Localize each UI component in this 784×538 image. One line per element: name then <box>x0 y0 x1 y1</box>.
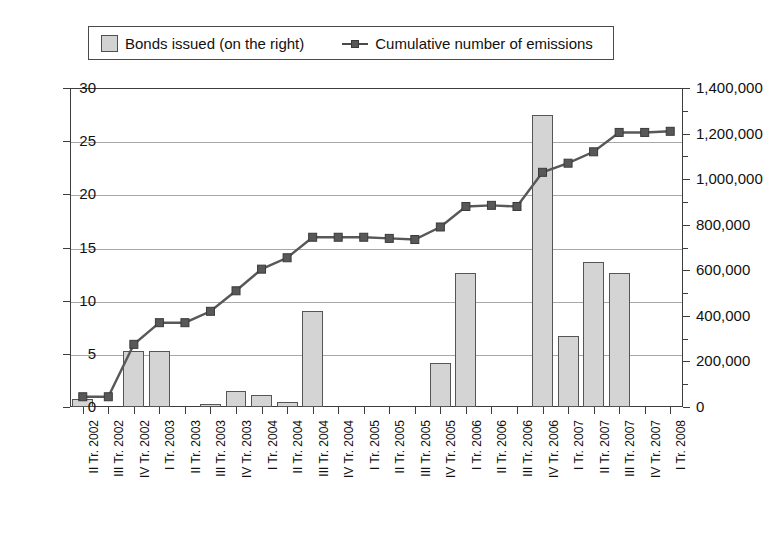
x-axis-tick <box>262 407 263 414</box>
x-axis-tick <box>491 407 492 414</box>
line-marker <box>411 236 419 244</box>
y-axis-left-tick <box>63 354 70 355</box>
x-axis-tick-label: III Tr. 2006 <box>522 420 534 477</box>
x-axis-tick-label: II Tr. 2007 <box>599 420 611 473</box>
line-marker <box>309 233 317 241</box>
y-axis-right-minor-tick <box>683 384 688 385</box>
line-marker <box>360 233 368 241</box>
line-marker <box>232 287 240 295</box>
line-marker <box>564 159 572 167</box>
y-axis-right-tick-label: 1,400,000 <box>696 80 763 95</box>
y-axis-left-tick-label: 30 <box>56 80 96 95</box>
legend-entry-bonds: Bonds issued (on the right) <box>101 35 304 52</box>
x-axis-tick-label: I Tr. 2003 <box>164 420 176 470</box>
line-marker <box>641 128 649 136</box>
y-axis-left-tick-label: 0 <box>56 399 96 414</box>
x-axis-tick <box>287 407 288 414</box>
line-series-layer <box>70 88 683 407</box>
x-axis-tick-label: I Tr. 2004 <box>267 420 279 470</box>
line-marker-icon <box>342 37 368 50</box>
x-axis-tick-label: IV Tr. 2004 <box>343 420 355 478</box>
line-marker <box>155 319 163 327</box>
y-axis-right-minor-tick <box>683 339 688 340</box>
y-axis-right-tick-label: 0 <box>696 399 704 414</box>
x-axis-tick-label: III Tr. 2005 <box>420 420 432 477</box>
x-axis-tick <box>364 407 365 414</box>
x-axis-tick <box>185 407 186 414</box>
y-axis-left-tick <box>63 248 70 249</box>
x-axis-tick <box>568 407 569 414</box>
x-axis-tick-label: IV Tr. 2005 <box>445 420 457 478</box>
x-axis-tick <box>670 407 671 414</box>
x-axis-tick-label: I Tr. 2006 <box>471 420 483 470</box>
x-axis-tick <box>440 407 441 414</box>
line-marker <box>104 393 112 401</box>
y-axis-right-tick <box>683 316 690 317</box>
x-axis-tick <box>313 407 314 414</box>
y-axis-right-tick <box>683 407 690 408</box>
chart-legend: Bonds issued (on the right) Cumulative n… <box>88 26 614 60</box>
y-axis-left-tick-label: 25 <box>56 133 96 148</box>
x-axis-tick <box>236 407 237 414</box>
x-axis-tick-label: I Tr. 2008 <box>675 420 687 470</box>
x-axis-tick-label: I Tr. 2005 <box>369 420 381 470</box>
line-marker <box>181 319 189 327</box>
y-axis-right-tick-label: 400,000 <box>696 308 750 323</box>
line-marker <box>615 128 623 136</box>
y-axis-right-tick-label: 200,000 <box>696 353 750 368</box>
line-marker <box>385 234 393 242</box>
x-axis-tick-label: III Tr. 2002 <box>113 420 125 477</box>
x-axis-tick-label: III Tr. 2003 <box>215 420 227 477</box>
x-axis-tick <box>134 407 135 414</box>
y-axis-left-tick <box>63 407 70 408</box>
x-axis-tick <box>517 407 518 414</box>
line-marker <box>513 202 521 210</box>
y-axis-left-tick-label: 20 <box>56 186 96 201</box>
cumulative-line <box>83 131 670 396</box>
y-axis-right-tick-label: 600,000 <box>696 262 750 277</box>
legend-label-cumulative: Cumulative number of emissions <box>375 36 593 51</box>
line-marker <box>206 307 214 315</box>
x-axis-tick <box>338 407 339 414</box>
x-axis-tick <box>210 407 211 414</box>
x-axis-tick <box>389 407 390 414</box>
y-axis-left-tick-label: 10 <box>56 293 96 308</box>
x-axis-tick-label: II Tr. 2002 <box>88 420 100 473</box>
x-axis-tick-label: III Tr. 2004 <box>318 420 330 477</box>
x-axis-tick-label: III Tr. 2007 <box>624 420 636 477</box>
x-axis-tick-label: IV Tr. 2003 <box>241 420 253 478</box>
x-axis-tick <box>543 407 544 414</box>
x-axis-tick-label: II Tr. 2006 <box>496 420 508 473</box>
y-axis-right-minor-tick <box>683 111 688 112</box>
line-marker <box>666 127 674 135</box>
x-axis-tick <box>594 407 595 414</box>
x-axis-tick-label: II Tr. 2005 <box>394 420 406 473</box>
y-axis-right-minor-tick <box>683 156 688 157</box>
y-axis-left-tick <box>63 88 70 89</box>
line-marker <box>283 254 291 262</box>
y-axis-left-tick <box>63 141 70 142</box>
line-marker <box>539 168 547 176</box>
chart-container: Bonds issued (on the right) Cumulative n… <box>0 0 784 538</box>
y-axis-right-tick <box>683 179 690 180</box>
line-marker <box>130 340 138 348</box>
legend-label-bonds: Bonds issued (on the right) <box>125 36 304 51</box>
x-axis-tick-label: IV Tr. 2007 <box>650 420 662 478</box>
x-axis-tick <box>619 407 620 414</box>
y-axis-right-tick <box>683 88 690 89</box>
y-axis-right-tick-label: 1,200,000 <box>696 126 763 141</box>
x-axis-tick-label: II Tr. 2004 <box>292 420 304 473</box>
x-axis-tick <box>159 407 160 414</box>
y-axis-left-tick <box>63 194 70 195</box>
x-axis-tick <box>645 407 646 414</box>
y-axis-right-minor-tick <box>683 293 688 294</box>
x-axis-tick-label: II Tr. 2003 <box>190 420 202 473</box>
y-axis-right-tick <box>683 270 690 271</box>
y-axis-right-tick-label: 800,000 <box>696 217 750 232</box>
x-axis-tick <box>83 407 84 414</box>
y-axis-left-tick-label: 5 <box>56 346 96 361</box>
y-axis-right-minor-tick <box>683 202 688 203</box>
y-axis-right-tick <box>683 225 690 226</box>
y-axis-left-tick <box>63 301 70 302</box>
line-marker <box>436 223 444 231</box>
